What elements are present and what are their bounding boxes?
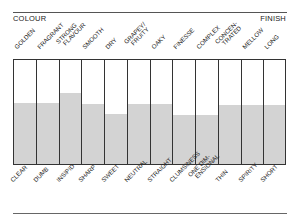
- finish-label: FINISH: [260, 14, 286, 23]
- bottom-label-line: INSIPID: [55, 163, 75, 183]
- colour-label: COLOUR: [13, 14, 46, 23]
- top-label-line: GOLDEN: [13, 27, 36, 50]
- bar-column: [127, 59, 151, 165]
- bar-fill: [82, 104, 105, 164]
- bar-column: [241, 59, 265, 165]
- top-label-line: OAKY: [150, 33, 167, 50]
- top-label: GOLDEN: [13, 27, 36, 50]
- top-label: LONG: [264, 33, 281, 50]
- top-label: FINESSE: [173, 27, 196, 50]
- bar-column: [218, 59, 242, 165]
- bottom-label: INSIPID: [55, 163, 75, 183]
- top-rule: [13, 12, 287, 13]
- bar-fill: [242, 105, 265, 164]
- bottom-label: THIN: [214, 168, 229, 183]
- bar-column: [13, 59, 37, 165]
- bar-column: [263, 59, 286, 165]
- top-label-line: LONG: [264, 33, 281, 50]
- top-label: SMOOTH: [82, 26, 106, 50]
- bottom-label-line: SHORT: [260, 163, 280, 183]
- bottom-label-line: THIN: [214, 168, 229, 183]
- bar-fill: [14, 103, 37, 164]
- top-label-line: SMOOTH: [82, 26, 106, 50]
- bottom-label-line: SWEET: [100, 163, 120, 183]
- bottom-label-line: CLEAR: [9, 164, 28, 183]
- bar-chart: [13, 59, 286, 165]
- bar-column: [36, 59, 60, 165]
- bottom-rule: [13, 213, 287, 214]
- bar-fill: [60, 93, 83, 164]
- bar-column: [104, 59, 128, 165]
- bar-fill: [105, 114, 128, 164]
- bottom-label-line: DUMB: [32, 166, 49, 183]
- bottom-label-line: SHARP: [78, 163, 98, 183]
- bottom-label: CLEAR: [9, 164, 28, 183]
- bar-column: [195, 59, 219, 165]
- top-label: DRY: [104, 36, 118, 50]
- bar-column: [81, 59, 105, 165]
- bar-fill: [151, 104, 174, 164]
- bar-column: [172, 59, 196, 165]
- bar-column: [150, 59, 174, 165]
- top-label-line: DRY: [104, 36, 118, 50]
- bottom-label: SHARP: [78, 163, 98, 183]
- bar-fill: [37, 103, 60, 164]
- bottom-label: DUMB: [32, 166, 49, 183]
- bar-fill: [128, 104, 151, 164]
- top-label: GRAPEY/FRUITY: [123, 21, 152, 50]
- bar-fill: [264, 105, 285, 164]
- top-label-line: MELLOW: [241, 26, 265, 50]
- top-label: OAKY: [150, 33, 167, 50]
- bar-column: [59, 59, 83, 165]
- top-label-line: FINESSE: [173, 27, 196, 50]
- top-label: MELLOW: [241, 26, 265, 50]
- bar-fill: [219, 105, 242, 164]
- bottom-label: SWEET: [100, 163, 120, 183]
- bottom-label: SHORT: [260, 163, 280, 183]
